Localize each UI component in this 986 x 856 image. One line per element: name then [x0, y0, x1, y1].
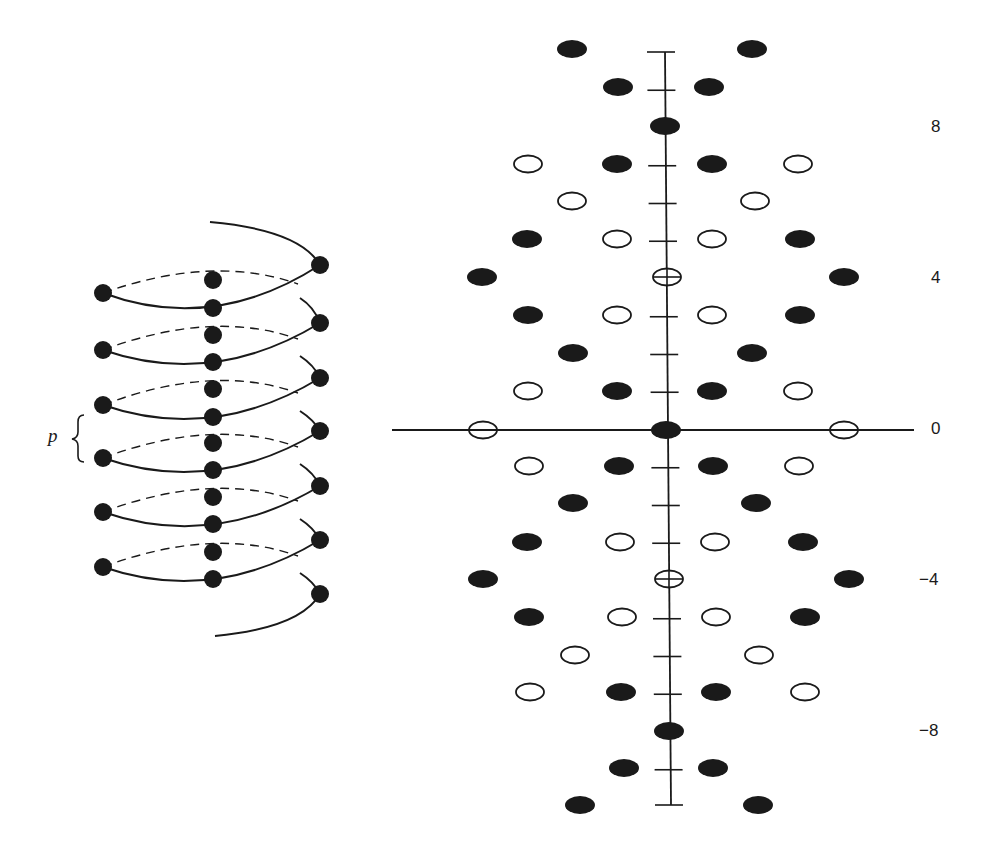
- diffraction-spot-filled: [513, 306, 543, 324]
- helix-subunit-dot: [204, 353, 222, 371]
- diffraction-spot-open: [515, 458, 543, 475]
- helix-subunit-dot: [204, 543, 222, 561]
- diffraction-spot-open: [516, 684, 544, 701]
- helix-subunit-dot: [204, 488, 222, 506]
- helix-subunit-dot: [204, 461, 222, 479]
- diffraction-spot-filled: [698, 759, 728, 777]
- diffraction-spot-filled: [737, 344, 767, 362]
- diffraction-spot-open: [791, 684, 819, 701]
- diffraction-spot-open: [784, 156, 812, 173]
- diffraction-spot-filled: [558, 344, 588, 362]
- diffraction-spot-open: [603, 307, 631, 324]
- diffraction-spot-open: [702, 609, 730, 626]
- diffraction-spot-open: [741, 193, 769, 210]
- helix-subunit-dot: [204, 326, 222, 344]
- helix-subunit-dot: [311, 369, 329, 387]
- diffraction-spot-filled: [558, 494, 588, 512]
- helix-strand: [215, 594, 320, 636]
- diffraction-spot-filled: [468, 570, 498, 588]
- helix-subunit-dot: [311, 256, 329, 274]
- helix-diffraction-figure: p 840−4−8: [0, 0, 986, 856]
- helix-subunit-dot: [204, 299, 222, 317]
- helix-drawing: [94, 222, 329, 636]
- helix-subunit-dot: [94, 396, 112, 414]
- helix-subunit-dot: [204, 434, 222, 452]
- diffraction-spot-filled: [785, 230, 815, 248]
- diffraction-spot-filled: [737, 40, 767, 58]
- helix-subunit-dot: [311, 585, 329, 603]
- diffraction-spot-open: [514, 156, 542, 173]
- diffraction-spot-open: [606, 534, 634, 551]
- helix-subunit-dot: [204, 271, 222, 289]
- diffraction-spot-filled: [697, 382, 727, 400]
- diffraction-spot-open: [698, 231, 726, 248]
- layer-line-label: −4: [919, 570, 938, 590]
- helix-subunit-dot: [204, 570, 222, 588]
- diffraction-spot-filled: [829, 268, 859, 286]
- helix-subunit-dot: [204, 408, 222, 426]
- figure-canvas: [0, 0, 986, 856]
- helix-subunit-dot: [94, 284, 112, 302]
- diffraction-spot-open: [784, 383, 812, 400]
- pitch-brace: [72, 415, 84, 462]
- helix-subunit-dot: [311, 531, 329, 549]
- pitch-label: p: [48, 425, 58, 447]
- diffraction-spot-filled: [512, 230, 542, 248]
- diffraction-spot-filled: [602, 382, 632, 400]
- diffraction-spots: [392, 40, 914, 814]
- diffraction-spot-filled: [565, 796, 595, 814]
- diffraction-spot-filled: [650, 117, 680, 135]
- diffraction-spot-open: [603, 231, 631, 248]
- diffraction-spot-filled: [785, 306, 815, 324]
- helix-strand: [210, 222, 320, 265]
- helix-back-strand: [103, 271, 298, 293]
- helix-subunit-dot: [94, 558, 112, 576]
- helix-subunit-dot: [311, 422, 329, 440]
- layer-line-label: −8: [919, 721, 938, 741]
- layer-line-label: 0: [931, 419, 940, 439]
- diffraction-spot-filled: [697, 155, 727, 173]
- helix-back-strand: [103, 543, 298, 567]
- diffraction-spot-filled: [604, 457, 634, 475]
- helix-subunit-dot: [204, 380, 222, 398]
- diffraction-spot-open: [698, 307, 726, 324]
- layer-line-label: 4: [931, 268, 940, 288]
- diffraction-spot-filled: [602, 155, 632, 173]
- diffraction-spot-filled: [467, 268, 497, 286]
- diffraction-spot-filled: [654, 722, 684, 740]
- helix-subunit-dot: [94, 503, 112, 521]
- diffraction-spot-open: [745, 647, 773, 664]
- diffraction-spot-open: [608, 609, 636, 626]
- diffraction-spot-open: [514, 383, 542, 400]
- diffraction-spot-filled: [512, 533, 542, 551]
- diffraction-spot-open: [785, 458, 813, 475]
- diffraction-spot-filled: [606, 683, 636, 701]
- diffraction-spot-filled: [694, 78, 724, 96]
- diffraction-spot-open: [558, 193, 586, 210]
- diffraction-spot-filled: [834, 570, 864, 588]
- diffraction-spot-filled: [701, 683, 731, 701]
- helix-subunit-dot: [311, 477, 329, 495]
- diffraction-spot-open: [701, 534, 729, 551]
- layer-line-label: 8: [931, 117, 940, 137]
- helix-back-strand: [103, 434, 298, 458]
- helix-back-strand: [103, 381, 298, 406]
- diffraction-spot-filled: [609, 759, 639, 777]
- helix-subunit-dot: [94, 449, 112, 467]
- helix-back-strand: [103, 488, 298, 512]
- helix-back-strand: [103, 326, 298, 350]
- diffraction-spot-filled: [698, 457, 728, 475]
- diffraction-spot-filled: [788, 533, 818, 551]
- diffraction-spot-filled: [790, 608, 820, 626]
- diffraction-spot-filled: [741, 494, 771, 512]
- helix-subunit-dot: [204, 515, 222, 533]
- diffraction-spot-open: [561, 647, 589, 664]
- diffraction-spot-filled: [514, 608, 544, 626]
- diffraction-spot-filled: [743, 796, 773, 814]
- diffraction-spot-filled: [557, 40, 587, 58]
- diffraction-spot-filled: [603, 78, 633, 96]
- helix-subunit-dot: [311, 314, 329, 332]
- helix-subunit-dot: [94, 341, 112, 359]
